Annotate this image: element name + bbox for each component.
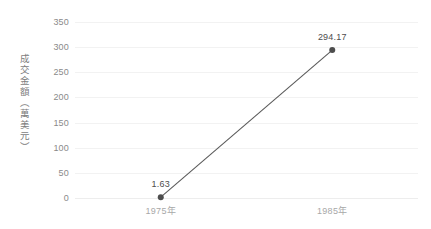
- plot-area: 1.63294.17: [75, 22, 418, 198]
- line-chart: 成交金額（萬美元） 350300250200150100500 1.63294.…: [0, 0, 431, 229]
- data-point-label: 294.17: [318, 32, 347, 42]
- data-point-marker: [329, 47, 335, 53]
- x-axis-tick-label: 1985年: [317, 204, 348, 217]
- data-point-label: 1.63: [152, 179, 170, 189]
- y-axis-tick-label: 100: [29, 143, 69, 153]
- data-point-marker: [158, 194, 164, 200]
- y-axis-tick-label: 200: [29, 92, 69, 102]
- series-path: [161, 50, 333, 197]
- y-axis-tick-label: 0: [29, 193, 69, 203]
- y-axis-tick-label: 50: [29, 168, 69, 178]
- y-axis-tick-label: 300: [29, 42, 69, 52]
- y-axis-tick-label: 350: [29, 17, 69, 27]
- y-axis-tick-labels: 350300250200150100500: [25, 22, 69, 198]
- gridline: [75, 198, 418, 199]
- y-axis-tick-label: 250: [29, 67, 69, 77]
- x-axis-tick-labels: 1975年1985年: [75, 204, 418, 220]
- x-axis-tick-label: 1975年: [145, 204, 176, 217]
- y-axis-tick-label: 150: [29, 118, 69, 128]
- series-line: [75, 22, 418, 198]
